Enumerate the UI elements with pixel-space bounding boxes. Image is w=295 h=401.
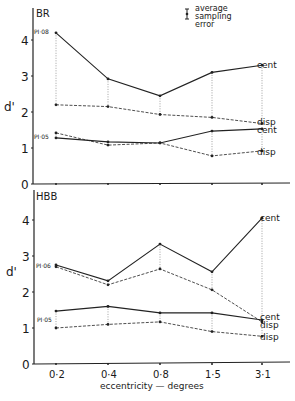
top-y-ticks: 01234 [21,34,33,192]
data-point [159,94,162,97]
error-legend: average sampling error [185,4,232,29]
data-point [107,283,110,286]
bottom-group-label-a: PI·06 [36,262,51,269]
bottom-panel: 01234 0·20·40·81·53·1 HBB d' PI·06 PI·05… [6,190,290,391]
top-end-label-cent-b: cent [257,125,277,135]
x-tick-label: 0·4 [101,369,117,380]
data-point [107,105,110,108]
bottom-end-label-disp-b: disp [260,332,279,342]
bottom-x-axis [34,362,290,364]
series-line [56,33,262,96]
top-panel: 01234 BR d' average sampling error PI·08… [4,4,290,192]
data-point [55,103,58,106]
x-tick-label: 0·2 [49,369,65,380]
data-point [107,144,110,147]
series-line [56,133,262,156]
bottom-end-label-disp-a: disp [260,320,279,330]
data-point [107,279,110,282]
data-point [211,288,214,291]
data-point [159,268,162,271]
data-point [159,311,162,314]
data-point [211,330,214,333]
data-point [107,305,110,308]
x-tick-label: 3·1 [255,369,271,380]
bottom-y-label: d' [6,265,17,279]
x-tick-label: 0·8 [153,369,169,380]
data-point [55,31,58,34]
data-point [55,131,58,134]
top-x-axis [33,183,290,184]
y-tick-label: 0 [21,178,29,192]
top-end-label-cent-a: cent [257,60,277,70]
top-series [55,31,264,157]
bottom-end-label-cent-a: cent [260,213,280,223]
data-point [55,327,58,330]
top-group-label-b: PI·05 [34,133,49,140]
top-end-label-disp-b: disp [257,147,276,157]
bottom-group-label-b: PI·05 [37,316,52,323]
data-point [159,320,162,323]
data-point [107,323,110,326]
series-line [56,218,262,281]
data-point [107,140,110,143]
bottom-y-ticks: 01234 [22,214,34,372]
top-panel-title: BR [36,8,50,19]
data-point [159,243,162,246]
x-axis-label: eccentricity — degrees [100,381,204,391]
legend-error: error [195,20,215,29]
y-tick-label: 2 [21,106,29,120]
y-tick-label: 4 [22,214,30,228]
data-point [211,311,214,314]
data-point [159,142,162,145]
y-tick-label: 1 [22,322,30,336]
figure: 01234 BR d' average sampling error PI·08… [0,0,295,401]
data-point [211,116,214,119]
series-line [56,129,262,143]
data-point [55,310,58,313]
data-point [211,270,214,273]
data-point [211,130,214,133]
series-line [56,322,262,336]
y-tick-label: 3 [21,70,29,84]
bottom-series [55,217,264,338]
top-y-label: d' [4,100,15,114]
data-point [107,77,110,80]
y-tick-label: 4 [21,34,29,48]
x-tick-label: 1·5 [205,369,221,380]
y-tick-label: 2 [22,286,30,300]
data-point [55,137,58,140]
data-point [211,155,214,158]
top-group-label-a: PI·08 [34,28,49,35]
y-tick-label: 1 [21,142,29,156]
y-tick-label: 0 [22,358,30,372]
bottom-panel-title: HBB [36,191,57,202]
data-point [159,113,162,116]
data-point [55,265,58,268]
y-tick-label: 3 [22,250,30,264]
bottom-x-ticks: 0·20·40·81·53·1 [49,363,271,380]
data-point [211,71,214,74]
